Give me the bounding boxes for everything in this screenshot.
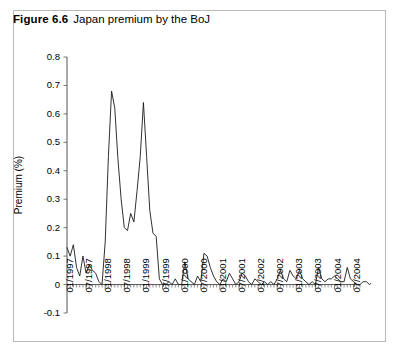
figure-caption: Figure 6.6Japan premium by the BoJ	[13, 12, 210, 26]
y-tick-label: 0.6	[47, 108, 60, 119]
figure-number: Figure 6.6	[13, 13, 68, 25]
y-tick-label: 0.8	[47, 51, 60, 62]
x-tick-label: 07/1999	[160, 258, 171, 292]
x-tick-label: 01/2001	[217, 258, 228, 292]
y-axis-title: Premium (%)	[13, 156, 24, 214]
x-tick-label: 07/2000	[198, 258, 209, 292]
y-axis-label-text: Premium (%)	[13, 156, 24, 214]
y-tick-label: 0.4	[47, 165, 60, 176]
x-tick-label: 01/2003	[293, 258, 304, 292]
y-tick-label: -0.1	[44, 307, 60, 318]
y-tick-label: 0.5	[47, 136, 60, 147]
x-tick-label: 01/1997	[64, 258, 75, 292]
y-tick-label: 0.7	[47, 79, 60, 90]
x-tick-label: 01/2004	[332, 258, 343, 292]
series-line	[67, 91, 371, 284]
x-tick-label: 07/2003	[312, 258, 323, 292]
figure-title: Japan premium by the BoJ	[68, 13, 210, 25]
x-tick-label: 01/1999	[140, 258, 151, 292]
y-tick-label: 0.3	[47, 193, 60, 204]
x-tick-label: 07/1998	[121, 258, 132, 292]
y-tick-label: 0.2	[47, 222, 60, 233]
line-chart: 0.80.70.60.50.40.30.20.10-0.1 01/199707/…	[0, 36, 371, 330]
chart-plot-area: 0.80.70.60.50.40.30.20.10-0.1 01/199707/…	[0, 36, 371, 330]
x-tick-label: 07/2004	[351, 258, 362, 292]
y-tick-label: 0	[55, 279, 60, 290]
y-tick-label: 0.1	[47, 250, 60, 261]
x-tick-label: 07/1997	[83, 258, 94, 292]
x-tick-label: 01/2002	[255, 258, 266, 292]
x-tick-label: 07/2002	[274, 258, 285, 292]
data-series-group	[67, 91, 371, 284]
